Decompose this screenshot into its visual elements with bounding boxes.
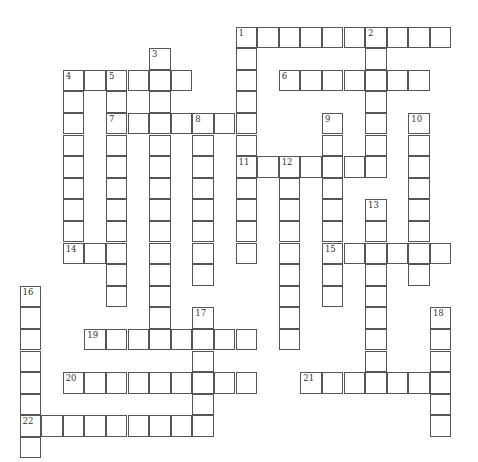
crossword-cell[interactable] bbox=[365, 329, 387, 351]
crossword-cell[interactable] bbox=[236, 70, 258, 92]
crossword-cell[interactable] bbox=[149, 243, 171, 265]
crossword-cell[interactable]: 19 bbox=[84, 329, 106, 351]
crossword-cell[interactable]: 21 bbox=[300, 372, 322, 394]
crossword-cell[interactable] bbox=[20, 437, 42, 459]
crossword-cell[interactable] bbox=[106, 264, 128, 286]
crossword-cell[interactable] bbox=[106, 415, 128, 437]
crossword-cell[interactable] bbox=[365, 307, 387, 329]
crossword-cell[interactable] bbox=[149, 307, 171, 329]
crossword-cell[interactable] bbox=[322, 372, 344, 394]
crossword-cell[interactable]: 14 bbox=[63, 243, 85, 265]
crossword-cell[interactable] bbox=[149, 199, 171, 221]
crossword-cell[interactable] bbox=[63, 221, 85, 243]
crossword-cell[interactable] bbox=[171, 70, 193, 92]
crossword-cell[interactable]: 13 bbox=[365, 199, 387, 221]
crossword-cell[interactable] bbox=[279, 27, 301, 49]
crossword-cell[interactable] bbox=[128, 372, 150, 394]
crossword-cell[interactable] bbox=[192, 221, 214, 243]
crossword-cell[interactable] bbox=[322, 221, 344, 243]
crossword-cell[interactable] bbox=[408, 243, 430, 265]
crossword-cell[interactable] bbox=[149, 135, 171, 157]
crossword-cell[interactable] bbox=[344, 243, 366, 265]
crossword-cell[interactable]: 3 bbox=[149, 48, 171, 70]
crossword-cell[interactable] bbox=[365, 264, 387, 286]
crossword-cell[interactable] bbox=[430, 394, 452, 416]
crossword-cell[interactable]: 18 bbox=[430, 307, 452, 329]
crossword-cell[interactable]: 17 bbox=[192, 307, 214, 329]
crossword-cell[interactable] bbox=[430, 27, 452, 49]
crossword-cell[interactable] bbox=[84, 415, 106, 437]
crossword-cell[interactable] bbox=[365, 113, 387, 135]
crossword-cell[interactable] bbox=[149, 70, 171, 92]
crossword-cell[interactable]: 5 bbox=[106, 70, 128, 92]
crossword-cell[interactable] bbox=[149, 415, 171, 437]
crossword-cell[interactable] bbox=[408, 27, 430, 49]
crossword-cell[interactable] bbox=[236, 221, 258, 243]
crossword-cell[interactable] bbox=[171, 372, 193, 394]
crossword-cell[interactable] bbox=[430, 372, 452, 394]
crossword-cell[interactable] bbox=[300, 70, 322, 92]
crossword-cell[interactable] bbox=[408, 135, 430, 157]
crossword-cell[interactable] bbox=[236, 372, 258, 394]
crossword-cell[interactable] bbox=[408, 264, 430, 286]
crossword-cell[interactable] bbox=[63, 178, 85, 200]
crossword-cell[interactable] bbox=[192, 351, 214, 373]
crossword-cell[interactable] bbox=[106, 135, 128, 157]
crossword-cell[interactable]: 22 bbox=[20, 415, 42, 437]
crossword-cell[interactable] bbox=[430, 243, 452, 265]
crossword-cell[interactable] bbox=[192, 199, 214, 221]
crossword-cell[interactable] bbox=[322, 286, 344, 308]
crossword-cell[interactable] bbox=[171, 415, 193, 437]
crossword-cell[interactable] bbox=[214, 329, 236, 351]
crossword-cell[interactable] bbox=[279, 264, 301, 286]
crossword-cell[interactable] bbox=[430, 329, 452, 351]
crossword-cell[interactable] bbox=[344, 27, 366, 49]
crossword-cell[interactable] bbox=[344, 156, 366, 178]
crossword-cell[interactable] bbox=[149, 329, 171, 351]
crossword-cell[interactable] bbox=[106, 372, 128, 394]
crossword-cell[interactable]: 15 bbox=[322, 243, 344, 265]
crossword-cell[interactable] bbox=[41, 415, 63, 437]
crossword-cell[interactable] bbox=[63, 156, 85, 178]
crossword-cell[interactable] bbox=[257, 27, 279, 49]
crossword-cell[interactable] bbox=[322, 27, 344, 49]
crossword-cell[interactable] bbox=[106, 91, 128, 113]
crossword-cell[interactable] bbox=[430, 351, 452, 373]
crossword-cell[interactable] bbox=[149, 264, 171, 286]
crossword-cell[interactable] bbox=[322, 199, 344, 221]
crossword-cell[interactable] bbox=[106, 156, 128, 178]
crossword-cell[interactable] bbox=[106, 178, 128, 200]
crossword-cell[interactable] bbox=[236, 91, 258, 113]
crossword-cell[interactable] bbox=[344, 70, 366, 92]
crossword-cell[interactable] bbox=[106, 329, 128, 351]
crossword-cell[interactable] bbox=[236, 135, 258, 157]
crossword-cell[interactable]: 7 bbox=[106, 113, 128, 135]
crossword-cell[interactable]: 9 bbox=[322, 113, 344, 135]
crossword-cell[interactable] bbox=[322, 178, 344, 200]
crossword-cell[interactable] bbox=[365, 221, 387, 243]
crossword-cell[interactable] bbox=[149, 113, 171, 135]
crossword-cell[interactable] bbox=[20, 372, 42, 394]
crossword-cell[interactable] bbox=[192, 394, 214, 416]
crossword-cell[interactable]: 4 bbox=[63, 70, 85, 92]
crossword-cell[interactable] bbox=[171, 113, 193, 135]
crossword-cell[interactable] bbox=[430, 415, 452, 437]
crossword-cell[interactable] bbox=[106, 221, 128, 243]
crossword-cell[interactable] bbox=[149, 91, 171, 113]
crossword-cell[interactable] bbox=[408, 156, 430, 178]
crossword-cell[interactable] bbox=[236, 243, 258, 265]
crossword-cell[interactable] bbox=[192, 329, 214, 351]
crossword-cell[interactable] bbox=[84, 372, 106, 394]
crossword-cell[interactable]: 10 bbox=[408, 113, 430, 135]
crossword-cell[interactable] bbox=[192, 178, 214, 200]
crossword-cell[interactable] bbox=[236, 199, 258, 221]
crossword-cell[interactable] bbox=[365, 70, 387, 92]
crossword-cell[interactable] bbox=[192, 135, 214, 157]
crossword-cell[interactable]: 16 bbox=[20, 286, 42, 308]
crossword-cell[interactable] bbox=[257, 156, 279, 178]
crossword-cell[interactable] bbox=[365, 243, 387, 265]
crossword-cell[interactable] bbox=[149, 372, 171, 394]
crossword-cell[interactable]: 20 bbox=[63, 372, 85, 394]
crossword-cell[interactable] bbox=[63, 113, 85, 135]
crossword-cell[interactable] bbox=[365, 351, 387, 373]
